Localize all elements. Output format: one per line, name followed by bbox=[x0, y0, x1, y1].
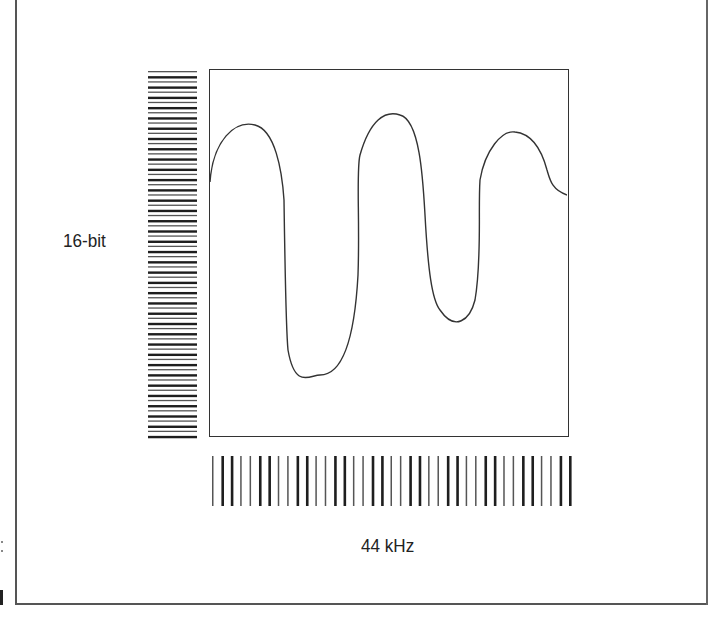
bit-depth-label: 16-bit bbox=[63, 230, 106, 252]
edge-dot bbox=[1, 541, 3, 543]
edge-mark bbox=[0, 590, 3, 605]
frame-left-border bbox=[15, 0, 17, 605]
waveform-curve bbox=[210, 114, 567, 378]
waveform-plot-box bbox=[209, 69, 569, 437]
frame-right-border bbox=[706, 0, 708, 605]
frame-bottom-border bbox=[15, 603, 708, 605]
edge-dot bbox=[1, 550, 3, 552]
bit-depth-levels bbox=[148, 71, 197, 441]
sample-rate-label: 44 kHz bbox=[361, 535, 414, 557]
sample-rate-ticks bbox=[212, 456, 572, 506]
analog-waveform bbox=[210, 70, 567, 435]
